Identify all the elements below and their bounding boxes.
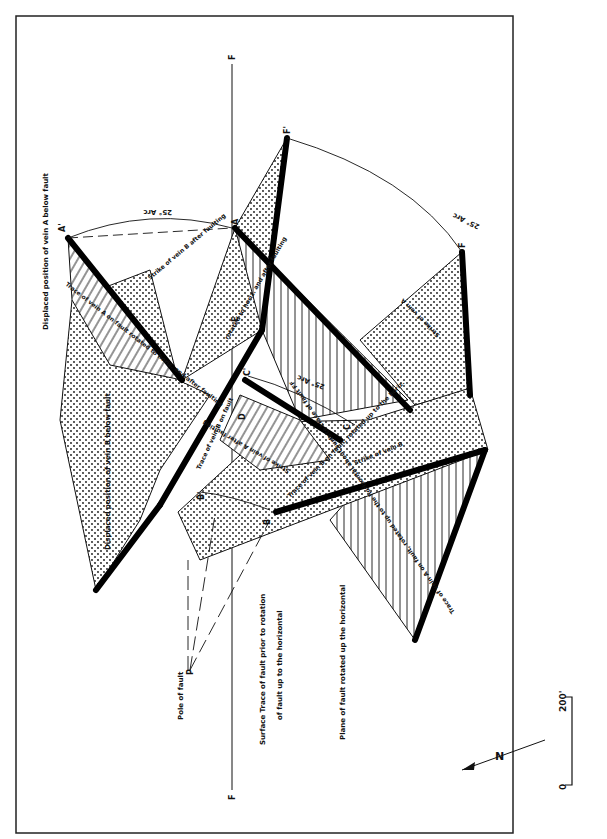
point-p: P xyxy=(186,669,195,675)
label-arc-1: 25° Arc xyxy=(143,208,172,216)
arc-f xyxy=(287,138,462,252)
point-c-prime: C' xyxy=(243,368,252,376)
scale-end: 200' xyxy=(558,690,568,712)
scale-start: 0 xyxy=(558,784,568,790)
fault-diagram: N 0 200' A' A F' F F F C' C D E B' B P D… xyxy=(0,0,607,839)
label-strike-b-after: Strike of vein B after faulting xyxy=(146,212,227,282)
label-plane-rotated: Plane of fault rotated up the horizontal xyxy=(339,585,347,740)
point-f-right: F xyxy=(458,243,467,248)
page-caption-edge xyxy=(593,0,607,839)
north-label: N xyxy=(495,750,504,763)
point-b: B xyxy=(263,519,272,525)
label-displaced-vein-b: Displaced position of vein B below fault xyxy=(104,393,112,550)
label-arc-2: 25° Arc xyxy=(451,211,480,230)
label-pole-of-fault: Pole of fault xyxy=(177,671,185,720)
point-f-prime: F' xyxy=(283,126,292,134)
label-surface-trace-1: Surface Trace of fault prior to rotation xyxy=(259,594,267,745)
point-f-top: F xyxy=(228,55,237,60)
point-b-prime: B' xyxy=(197,491,206,500)
point-a: A xyxy=(231,218,240,225)
point-d: D xyxy=(238,413,247,420)
label-displaced-vein-a: Displaced position of vein A below fault xyxy=(42,172,50,330)
label-surface-trace-2: of fault up to the horizontal xyxy=(276,610,284,720)
point-f-bottom: F xyxy=(228,795,237,800)
point-a-prime: A' xyxy=(58,223,67,232)
